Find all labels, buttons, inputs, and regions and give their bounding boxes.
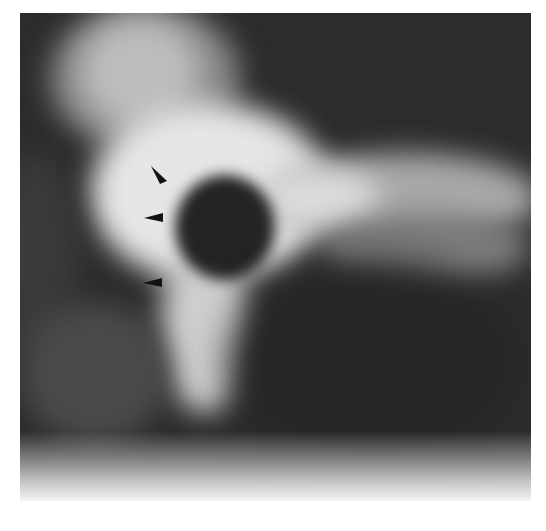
annotation-layer xyxy=(20,13,531,501)
arrowhead-icon-1 xyxy=(151,166,167,184)
radiograph-image xyxy=(20,13,531,501)
arrowhead-icon-3 xyxy=(143,278,162,287)
arrowhead-icon-2 xyxy=(144,213,163,222)
